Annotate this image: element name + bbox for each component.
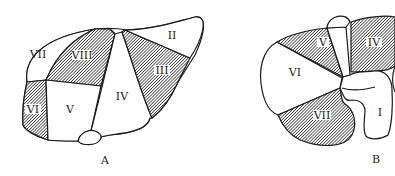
label-b-iv: IV [368,36,381,49]
caption-a: A [100,154,110,167]
caption-b: B [372,153,380,166]
round-ligament-b [327,16,350,28]
label-a-viii: VIII [71,49,93,62]
figure-b: V IV VI VII I B [261,16,395,166]
label-b-vii: VII [313,109,331,122]
label-a-vii: VII [29,48,47,61]
label-b-v: V [318,36,328,49]
figure-a: VII VIII VI V IV III II A [23,17,204,167]
label-a-iv: IV [116,90,129,103]
label-a-v: V [65,103,75,116]
label-a-ii: II [168,29,177,42]
label-a-iii: III [155,64,168,77]
label-a-vi: VI [26,103,39,116]
label-b-vi: VI [288,66,301,79]
label-b-i: I [378,106,382,119]
liver-segments-diagram: VII VIII VI V IV III II A V [0,0,395,176]
